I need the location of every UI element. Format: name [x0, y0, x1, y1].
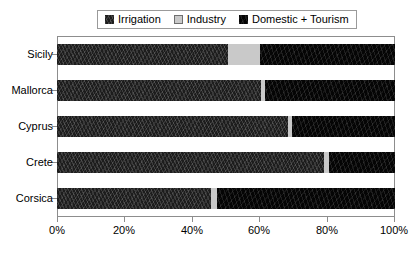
legend-item-domestic-tourism[interactable]: Domestic + Tourism: [239, 14, 349, 25]
x-tick-mark: [124, 217, 125, 222]
y-axis-label-cyprus: Cyprus: [1, 121, 53, 132]
stacked-bar-chart: Irrigation Industry Domestic + Tourism: [0, 0, 413, 255]
x-tick-mark: [57, 217, 58, 222]
bar-segment-irrigation[interactable]: [57, 116, 288, 137]
x-tick-mark: [192, 217, 193, 222]
y-axis-label-mallorca: Mallorca: [1, 85, 53, 96]
bars-layer: [57, 36, 395, 217]
x-axis-label-20: 20%: [113, 224, 135, 236]
table-row[interactable]: [57, 188, 395, 209]
legend-swatch-irrigation-icon: [105, 15, 114, 24]
x-tick-mark: [259, 217, 260, 222]
y-axis-label-sicily: Sicily: [1, 49, 53, 60]
legend-label-industry: Industry: [187, 14, 226, 25]
legend-label-irrigation: Irrigation: [118, 14, 161, 25]
bar-segment-domestic-tourism[interactable]: [329, 152, 395, 173]
y-axis-labels: Sicily Mallorca Cyprus Crete Corsica: [0, 36, 53, 217]
bar-segment-domestic-tourism[interactable]: [217, 188, 395, 209]
x-axis-label-40: 40%: [181, 224, 203, 236]
table-row[interactable]: [57, 80, 395, 101]
y-axis-label-corsica: Corsica: [1, 193, 53, 204]
x-axis-label-100: 100%: [380, 224, 408, 236]
bar-segment-domestic-tourism[interactable]: [292, 116, 395, 137]
bar-segment-irrigation[interactable]: [57, 44, 228, 65]
legend-swatch-domestic-tourism-icon: [239, 15, 248, 24]
legend-item-irrigation[interactable]: Irrigation: [105, 14, 161, 25]
legend-swatch-industry-icon: [174, 15, 183, 24]
bar-segment-irrigation[interactable]: [57, 188, 211, 209]
bar-segment-domestic-tourism[interactable]: [265, 80, 395, 101]
x-axis-labels: 0% 20% 40% 60% 80% 100%: [57, 224, 395, 238]
table-row[interactable]: [57, 152, 395, 173]
x-tick-mark: [327, 217, 328, 222]
x-axis-label-0: 0%: [49, 224, 65, 236]
table-row[interactable]: [57, 44, 395, 65]
table-row[interactable]: [57, 116, 395, 137]
bar-segment-industry[interactable]: [228, 44, 260, 65]
bar-segment-irrigation[interactable]: [57, 80, 261, 101]
x-tick-mark: [394, 217, 395, 222]
x-axis-ticks: [57, 217, 395, 223]
legend-label-domestic-tourism: Domestic + Tourism: [252, 14, 349, 25]
bar-segment-irrigation[interactable]: [57, 152, 324, 173]
y-axis-label-crete: Crete: [1, 157, 53, 168]
x-axis-label-80: 80%: [316, 224, 338, 236]
bar-segment-domestic-tourism[interactable]: [260, 44, 395, 65]
chart-legend: Irrigation Industry Domestic + Tourism: [97, 10, 357, 29]
legend-item-industry[interactable]: Industry: [174, 14, 226, 25]
x-axis-label-60: 60%: [248, 224, 270, 236]
